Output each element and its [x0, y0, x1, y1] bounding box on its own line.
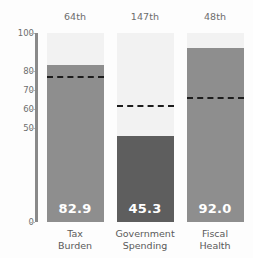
y-axis-tick-mark: [29, 71, 35, 72]
bar-tax-burden[interactable]: 82.9: [47, 65, 104, 222]
rank-label-government-spending: 147th: [110, 9, 180, 25]
bar-value-label: 45.3: [117, 201, 174, 216]
category-label-tax-burden: Tax Burden: [40, 228, 110, 256]
rank-label-tax-burden: 64th: [40, 9, 110, 25]
y-axis-tick-mark: [29, 90, 35, 91]
bar-chart: 64th 147th 48th 100807060500 82.945.392.…: [0, 0, 253, 258]
bar-column-fiscal-health: 92.0: [187, 33, 244, 222]
bar-column-tax-burden: 82.9: [47, 33, 104, 222]
reference-line-tax-burden: [47, 76, 104, 78]
rank-label-row: 64th 147th 48th: [40, 9, 250, 25]
category-label-line: Health: [180, 240, 250, 252]
bar-column-government-spending: 45.3: [117, 33, 174, 222]
category-label-line: Government: [110, 228, 180, 240]
category-label-government-spending: Government Spending: [110, 228, 180, 256]
bar-value-label: 82.9: [47, 201, 104, 216]
plot-area: 82.945.392.0: [40, 33, 250, 222]
category-label-line: Fiscal: [180, 228, 250, 240]
category-label-row: Tax Burden Government Spending Fiscal He…: [40, 228, 250, 256]
y-axis-tick-mark: [29, 33, 35, 34]
bar-government-spending[interactable]: 45.3: [117, 136, 174, 222]
y-axis-spine: [35, 33, 38, 222]
y-axis-tick-mark: [29, 128, 35, 129]
y-axis-tick-mark: [29, 222, 35, 223]
y-axis-tick-mark: [29, 109, 35, 110]
reference-line-government-spending: [117, 105, 174, 107]
rank-label-fiscal-health: 48th: [180, 9, 250, 25]
category-label-line: Spending: [110, 240, 180, 252]
category-label-line: Burden: [40, 240, 110, 252]
category-label-fiscal-health: Fiscal Health: [180, 228, 250, 256]
category-label-line: Tax: [40, 228, 110, 240]
bar-value-label: 92.0: [187, 201, 244, 216]
reference-line-fiscal-health: [187, 97, 244, 99]
bar-fiscal-health[interactable]: 92.0: [187, 48, 244, 222]
